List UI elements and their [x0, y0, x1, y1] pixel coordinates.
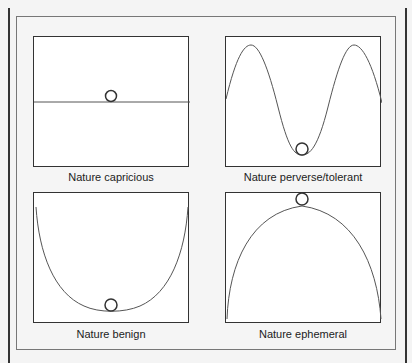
ball-icon — [296, 193, 308, 205]
panel-capricious — [33, 36, 189, 167]
caption-capricious: Nature capricious — [33, 171, 189, 183]
ball-icon — [106, 91, 117, 102]
outer-border-left — [8, 8, 10, 363]
caption-benign: Nature benign — [33, 328, 189, 340]
outer-border-right — [405, 8, 407, 363]
panel-ephemeral — [225, 192, 381, 323]
dome-curve — [226, 193, 382, 322]
ball-icon — [105, 299, 117, 311]
caption-perverse-tolerant: Nature perverse/tolerant — [225, 171, 381, 183]
panel-benign — [33, 192, 189, 323]
caption-ephemeral: Nature ephemeral — [225, 328, 381, 340]
bowl-curve — [34, 193, 190, 322]
wave-curve — [226, 37, 382, 168]
panel-perverse-tolerant — [225, 36, 381, 167]
flat-line-curve — [34, 37, 190, 168]
ball-icon — [296, 143, 308, 155]
